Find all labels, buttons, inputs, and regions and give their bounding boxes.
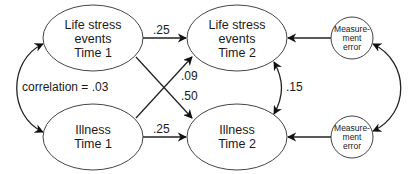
label-stress1-to-stress2: .25: [153, 23, 170, 37]
svg-text:Time 1: Time 1: [74, 137, 112, 151]
svg-text:Illness: Illness: [219, 123, 254, 137]
edge-error-correlation: [373, 44, 401, 131]
svg-text:Time 1: Time 1: [74, 46, 112, 60]
node-stress-time1: Life stress events Time 1: [43, 5, 143, 71]
path-diagram: .25 .09 .50 .25 .15 correlation = .03 Li…: [0, 0, 419, 174]
svg-text:Time 2: Time 2: [218, 137, 256, 151]
edge-time2-correlation: [274, 62, 282, 114]
node-illness-time2: Illness Time 2: [187, 104, 287, 170]
svg-text:Illness: Illness: [75, 123, 110, 137]
label-stress1-to-illness2: .50: [181, 89, 198, 103]
node-illness-time1: Illness Time 1: [43, 104, 143, 170]
node-stress-time2: Life stress events Time 2: [187, 5, 287, 71]
label-time2-correlation: .15: [286, 80, 303, 94]
label-illness1-to-stress2: .09: [181, 69, 198, 83]
label-illness1-to-illness2: .25: [153, 122, 170, 136]
svg-text:Time 2: Time 2: [218, 46, 256, 60]
svg-text:Life stress: Life stress: [65, 18, 122, 32]
label-time1-correlation: correlation = .03: [22, 80, 109, 94]
svg-text:error: error: [343, 42, 361, 52]
node-measurement-error-bottom: Measure- ment error: [331, 116, 373, 158]
node-measurement-error-top: Measure- ment error: [331, 17, 373, 59]
svg-text:error: error: [343, 141, 361, 151]
svg-text:events: events: [219, 32, 256, 46]
svg-text:Life stress: Life stress: [209, 18, 266, 32]
svg-text:events: events: [75, 32, 112, 46]
